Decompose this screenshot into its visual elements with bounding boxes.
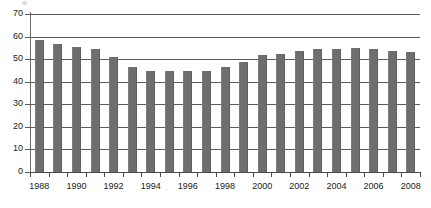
x-tick-mark-6 — [141, 173, 142, 177]
x-tick-label-1996: 1996 — [171, 181, 205, 191]
y-tick-label-70: 70 — [0, 9, 23, 18]
bar-1999 — [239, 62, 248, 172]
x-tick-mark-1 — [49, 173, 50, 177]
bar-2006 — [369, 49, 378, 172]
bar-1997 — [202, 71, 211, 172]
x-tick-mark-18 — [364, 173, 365, 177]
x-tick-mark-0 — [30, 173, 31, 177]
bar-1990 — [72, 47, 81, 172]
x-tick-label-1998: 1998 — [208, 181, 242, 191]
y-tick-label-10: 10 — [0, 144, 23, 153]
y-tick-label-30: 30 — [0, 99, 23, 108]
x-tick-label-2008: 2008 — [394, 181, 428, 191]
x-tick-mark-2 — [67, 173, 68, 177]
x-tick-label-1990: 1990 — [59, 181, 93, 191]
x-tick-mark-7 — [160, 173, 161, 177]
bar-1996 — [183, 71, 192, 172]
x-tick-mark-11 — [234, 173, 235, 177]
x-tick-label-1994: 1994 — [134, 181, 168, 191]
bar-2008 — [406, 52, 415, 172]
bar-chart: 010203040506070 198819901992199419961998… — [0, 0, 431, 208]
bar-1992 — [109, 57, 118, 172]
x-tick-mark-4 — [104, 173, 105, 177]
x-tick-mark-19 — [383, 173, 384, 177]
x-tick-mark-16 — [327, 173, 328, 177]
bar-2005 — [351, 48, 360, 172]
x-tick-mark-10 — [216, 173, 217, 177]
x-tick-label-2006: 2006 — [357, 181, 391, 191]
x-tick-mark-9 — [197, 173, 198, 177]
bar-2002 — [295, 51, 304, 172]
x-tick-mark-21 — [420, 173, 421, 177]
x-tick-mark-8 — [179, 173, 180, 177]
scan-artifact — [22, 1, 27, 5]
bar-1994 — [146, 71, 155, 172]
bar-2007 — [388, 51, 397, 172]
bar-1988 — [35, 40, 44, 172]
bars-layer — [30, 14, 420, 172]
x-tick-mark-17 — [346, 173, 347, 177]
x-tick-label-2000: 2000 — [245, 181, 279, 191]
x-tick-label-1992: 1992 — [97, 181, 131, 191]
bar-1989 — [53, 44, 62, 172]
x-tick-mark-3 — [86, 173, 87, 177]
x-tick-mark-15 — [309, 173, 310, 177]
gridline-0 — [30, 172, 420, 173]
x-tick-mark-13 — [271, 173, 272, 177]
y-tick-label-0: 0 — [0, 167, 23, 176]
x-tick-label-2004: 2004 — [319, 181, 353, 191]
x-tick-label-1988: 1988 — [22, 181, 56, 191]
plot-area — [30, 14, 420, 172]
bar-1995 — [165, 71, 174, 172]
bar-1991 — [91, 49, 100, 172]
y-tick-label-60: 60 — [0, 32, 23, 41]
x-tick-mark-5 — [123, 173, 124, 177]
bar-2003 — [313, 49, 322, 172]
bar-1998 — [221, 67, 230, 172]
x-tick-mark-20 — [401, 173, 402, 177]
y-tick-label-20: 20 — [0, 122, 23, 131]
bar-1993 — [128, 67, 137, 172]
x-tick-mark-14 — [290, 173, 291, 177]
bar-2000 — [258, 55, 267, 172]
bar-2001 — [276, 54, 285, 172]
x-tick-label-2002: 2002 — [282, 181, 316, 191]
y-tick-label-50: 50 — [0, 54, 23, 63]
bar-2004 — [332, 49, 341, 172]
x-tick-mark-12 — [253, 173, 254, 177]
y-tick-label-40: 40 — [0, 77, 23, 86]
